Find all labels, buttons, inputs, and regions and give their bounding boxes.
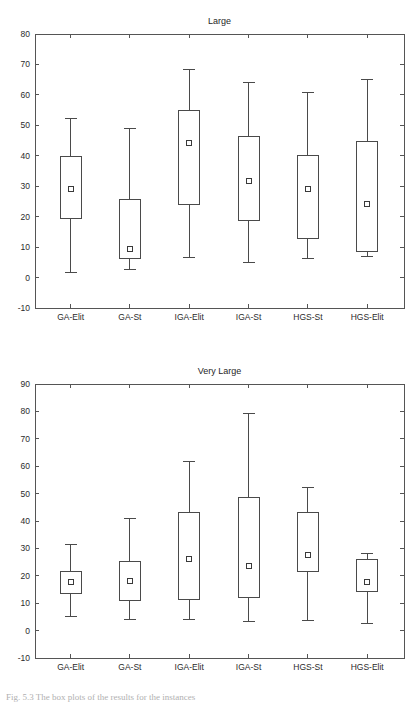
figure-page: Large-1001020304050607080GA-ElitGA-StIGA… [0,0,420,704]
y-tick-label: 30 [21,543,31,553]
box-body [60,571,81,593]
y-tick-label: 70 [21,434,31,444]
mean-marker [305,187,310,192]
box-body [60,157,81,219]
y-tick-label: 50 [21,120,31,130]
y-tick-label: 10 [21,598,31,608]
y-tick-label: 20 [21,212,31,222]
y-tick-label: 20 [21,571,31,581]
y-tick-label: 60 [21,90,31,100]
x-tick-label: GA-St [118,312,142,322]
box-body [119,199,140,258]
boxplot-svg-very-large: Very Large-100102030405060708090GA-ElitG… [0,352,420,704]
box-body [357,559,378,591]
boxplot-figure-large: Large-1001020304050607080GA-ElitGA-StIGA… [0,0,420,352]
y-tick-label: 90 [21,379,31,389]
box-plot-item [179,70,200,258]
chart-title: Very Large [198,366,242,376]
y-tick-label: 30 [21,181,31,191]
x-tick-label: GA-St [118,662,142,672]
box-plot-item [60,545,81,617]
y-tick-label: 40 [21,151,31,161]
mean-marker [68,580,73,585]
y-tick-label: 0 [25,626,30,636]
box-plot-item [297,488,318,621]
mean-marker [187,557,192,562]
y-tick-label: 60 [21,461,31,471]
y-tick-label: 80 [21,29,31,39]
x-tick-label: IGA-St [236,662,262,672]
mean-marker [365,580,370,585]
x-tick-label: HGS-St [293,312,323,322]
boxplot-figure-very-large: Very Large-100102030405060708090GA-ElitG… [0,352,420,704]
mean-marker [187,140,192,145]
y-tick-label: -10 [18,653,31,663]
mean-marker [246,179,251,184]
box-plot-item [357,80,378,257]
y-tick-label: 70 [21,59,31,69]
x-tick-label: GA-Elit [57,312,85,322]
box-body [297,155,318,238]
box-plot-item [119,519,140,620]
x-tick-label: HGS-Elit [351,662,385,672]
box-plot-item [119,128,140,270]
x-tick-label: IGA-Elit [175,662,205,672]
box-plot-item [179,461,200,619]
y-tick-label: 50 [21,489,31,499]
box-body [357,141,378,251]
mean-marker [127,579,132,584]
box-plot-item [297,92,318,258]
mean-marker [68,187,73,192]
box-plot-item [238,414,259,622]
plot-frame [35,384,404,658]
boxplot-svg-large: Large-1001020304050607080GA-ElitGA-StIGA… [0,0,420,352]
box-plot-item [357,554,378,624]
mean-marker [305,552,310,557]
x-tick-label: IGA-Elit [175,312,205,322]
x-tick-label: GA-Elit [57,662,85,672]
plot-frame [35,34,404,308]
mean-marker [365,201,370,206]
y-tick-label: 0 [25,273,30,283]
x-tick-label: HGS-St [293,662,323,672]
box-body [119,561,140,600]
x-tick-label: HGS-Elit [351,312,385,322]
mean-marker [246,563,251,568]
y-tick-label: 10 [21,242,31,252]
y-tick-label: -10 [18,303,31,313]
box-plot-item [238,82,259,262]
x-tick-label: IGA-St [236,312,262,322]
box-plot-item [60,119,81,272]
mean-marker [127,246,132,251]
chart-title: Large [208,16,231,26]
y-tick-label: 80 [21,406,31,416]
box-body [238,498,259,598]
figure-caption: Fig. 5.3 The box plots of the results fo… [6,692,414,703]
box-body [297,513,318,572]
y-tick-label: 40 [21,516,31,526]
box-body [179,110,200,205]
